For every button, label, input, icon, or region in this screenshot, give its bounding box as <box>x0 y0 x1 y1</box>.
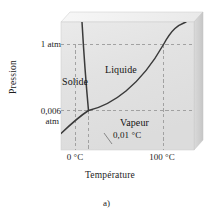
x-tick-label-100c: 100 °C <box>143 152 181 162</box>
triple-point-label: 0,01 °C <box>113 130 141 140</box>
phase-diagram-plot <box>0 0 213 222</box>
x-axis-title: Température <box>55 170 165 180</box>
y-axis-title: Pression <box>8 42 18 112</box>
panel-top-face <box>61 12 203 22</box>
region-label-vapor: Vapeur <box>120 117 149 128</box>
panel-right-face <box>194 12 203 150</box>
region-label-solid: Solide <box>62 76 88 87</box>
phase-diagram-figure: Pression 1 atm 0,006 atm 0 °C 100 °C Tem… <box>0 0 213 222</box>
y-tick-label-1-atm: 1 atm <box>41 39 61 49</box>
y-tick-label-0006-atm: 0,006 atm <box>41 106 61 126</box>
region-label-liquid: Liquide <box>105 64 137 75</box>
y-tick-value-0006: 0,006 <box>41 106 61 116</box>
x-tick-label-0c: 0 °C <box>60 152 90 162</box>
figure-caption: a) <box>0 198 213 208</box>
y-tick-unit-atm: atm <box>41 116 61 126</box>
